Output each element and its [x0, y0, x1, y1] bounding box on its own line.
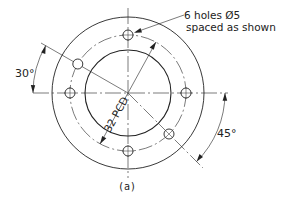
arrow-icon: [223, 93, 228, 101]
hole-left: [64, 87, 76, 99]
hole-upper-left: [73, 59, 83, 69]
pcd-label: 32 PCD: [101, 95, 130, 134]
arrow-icon: [31, 85, 35, 93]
arrow-icon: [134, 28, 142, 33]
hole-bottom: [122, 145, 134, 157]
flange-drawing: 6 holes Ø5 spaced as shown 30° 45° 32 PC…: [0, 0, 286, 204]
arrow-icon: [197, 154, 203, 162]
arrow-icon: [100, 136, 106, 144]
angle-label-45: 45°: [217, 127, 237, 140]
hole-lower-right: [164, 129, 174, 139]
note-line-1: 6 holes Ø5: [184, 9, 240, 21]
figure-caption: (a): [118, 181, 136, 192]
note-line-2: spaced as shown: [186, 21, 276, 33]
note-leader: [136, 15, 184, 32]
angle-label-30: 30°: [15, 67, 35, 80]
arrow-icon: [150, 42, 156, 50]
arrow-icon: [41, 46, 46, 55]
radial-line-30: [41, 43, 128, 93]
hole-right: [180, 87, 192, 99]
hole-top: [122, 29, 134, 41]
